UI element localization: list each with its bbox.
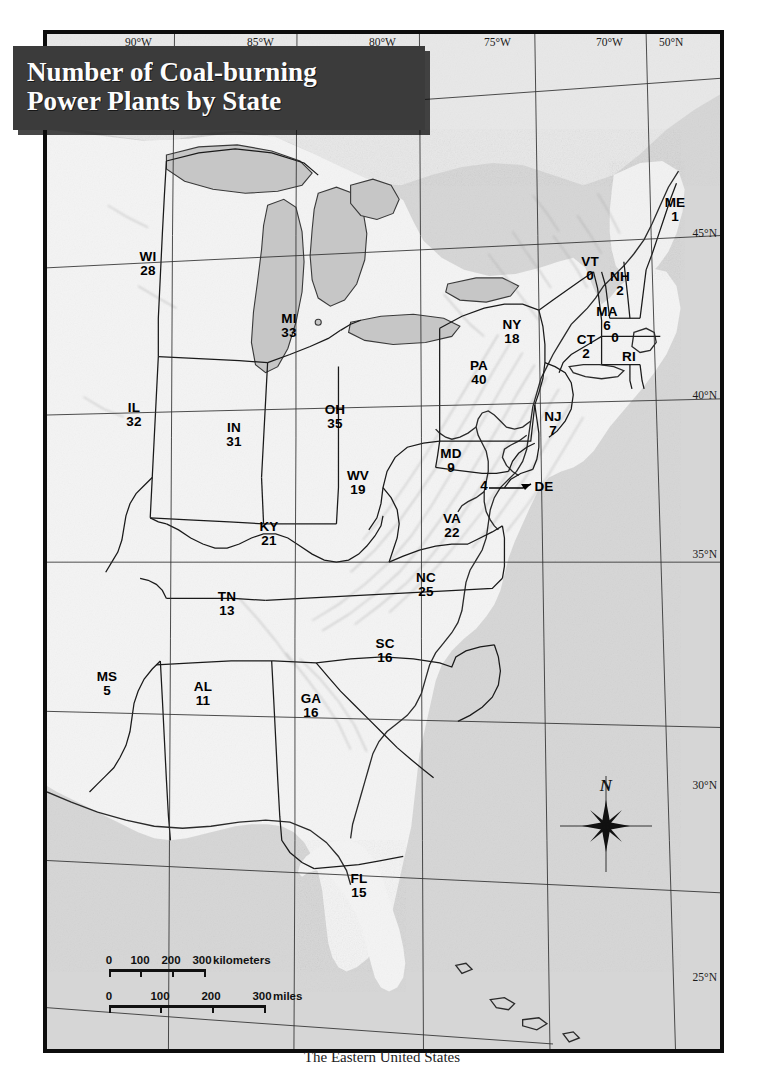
map-svg (47, 34, 720, 1049)
scale-km-tick-0: 0 (106, 954, 112, 966)
map-title-line-2: Power Plants by State (27, 87, 425, 116)
state-label-nc: NC 25 (416, 571, 436, 599)
lat-label-40n: 40°N (693, 389, 717, 401)
scale-km-tick-1: 100 (130, 954, 149, 966)
scale-mi-tick-2: 200 (201, 990, 220, 1002)
state-label-sc: SC 16 (375, 637, 394, 665)
scale-km-tick-2: 200 (161, 954, 180, 966)
scale-mi-tick-0: 0 (106, 990, 112, 1002)
compass-rose: N (560, 776, 652, 872)
scale-mi-tick-3: 300 (252, 990, 271, 1002)
map-frame: N 0 100 200 300 kilometers (43, 30, 724, 1053)
state-label-in: IN 31 (226, 421, 241, 449)
lon-label-70w: 70°W (596, 36, 623, 48)
state-label-nh: NH 2 (610, 270, 630, 298)
state-label-wi: WI 28 (140, 250, 157, 278)
state-label-oh: OH 35 (325, 403, 346, 431)
state-label-md: MD 9 (440, 447, 461, 475)
state-label-ky: KY 21 (259, 520, 278, 548)
state-label-fl: FL 15 (351, 872, 368, 900)
state-label-nj: NJ 7 (544, 410, 562, 438)
map-canvas (47, 34, 720, 1049)
state-label-vt: VT 0 (581, 255, 599, 283)
state-label-al: AL 11 (194, 680, 212, 708)
state-label-ga: GA 16 (301, 692, 322, 720)
state-label-pa: PA 40 (470, 359, 488, 387)
state-label-il: IL 32 (126, 401, 141, 429)
map-title-line-1: Number of Coal-burning (27, 58, 425, 87)
delaware-leader-line (487, 474, 547, 496)
lat-label-45n: 45°N (693, 227, 717, 239)
lat-label-30n: 30°N (693, 779, 717, 791)
lat-label-50n: 50°N (659, 36, 683, 48)
state-label-ri: RI (622, 350, 636, 364)
scale-mi-unit: miles (273, 990, 302, 1002)
scale-km-tick-3: 300 (192, 954, 211, 966)
state-label-wv: WV 19 (347, 469, 369, 497)
lat-label-35n: 35°N (693, 548, 717, 560)
state-label-ms: MS 5 (97, 670, 118, 698)
lat-label-25n: 25°N (693, 971, 717, 983)
scale-mi-tick-1: 100 (150, 990, 169, 1002)
state-label-va: VA 22 (443, 512, 461, 540)
state-label-mi: MI 33 (281, 312, 296, 340)
state-label-me: ME 1 (665, 196, 686, 224)
state-label-tn: TN 13 (218, 590, 236, 618)
figure-caption: The Eastern United States (0, 1049, 764, 1065)
state-label-ri-value: 0 (611, 331, 619, 345)
lon-label-75w: 75°W (484, 36, 511, 48)
compass-star-icon (560, 776, 652, 872)
state-label-ct: CT 2 (577, 333, 595, 361)
map-title-plaque: Number of Coal-burning Power Plants by S… (13, 46, 425, 130)
scale-km-unit: kilometers (213, 954, 271, 966)
state-label-ma: MA 6 (596, 305, 617, 333)
state-label-ny: NY 18 (502, 318, 521, 346)
